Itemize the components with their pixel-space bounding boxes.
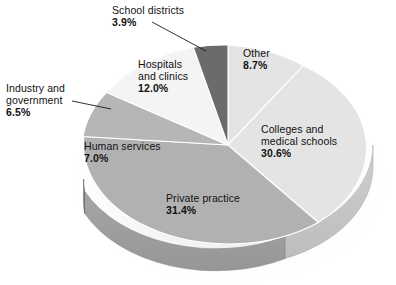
slice-label-private-practice: Private practice 31.4% (166, 192, 240, 216)
slice-label-industry-government-name-line1: Industry and (6, 82, 65, 94)
slice-label-hospitals-clinics-name-line1: Hospitals (138, 58, 188, 70)
slice-label-human-services-name: Human services (84, 140, 161, 152)
slice-label-hospitals-clinics-percent: 12.0% (138, 82, 188, 94)
slice-label-other-percent: 8.7% (243, 59, 270, 71)
slice-label-other: Other 8.7% (243, 47, 270, 71)
slice-label-industry-government: Industry and government 6.5% (6, 82, 65, 119)
pie-chart-figure: School districts 3.9% Other 8.7% College… (0, 0, 396, 285)
slice-label-private-practice-name: Private practice (166, 192, 240, 204)
slice-label-school-districts: School districts 3.9% (112, 4, 184, 28)
slice-label-industry-government-percent: 6.5% (6, 106, 65, 118)
slice-label-colleges-percent: 30.6% (261, 147, 337, 159)
slice-label-school-districts-percent: 3.9% (112, 16, 184, 28)
slice-label-hospitals-clinics-name-line2: and clinics (138, 70, 188, 82)
slice-label-industry-government-name-line2: government (6, 94, 65, 106)
slice-label-colleges: Colleges and medical schools 30.6% (261, 123, 337, 160)
slice-label-hospitals-clinics: Hospitals and clinics 12.0% (138, 58, 188, 95)
slice-label-private-practice-percent: 31.4% (166, 204, 240, 216)
slice-label-human-services-percent: 7.0% (84, 152, 161, 164)
slice-label-human-services: Human services 7.0% (84, 140, 161, 164)
slice-label-other-name: Other (243, 47, 270, 59)
slice-label-colleges-name-line2: medical schools (261, 135, 337, 147)
slice-label-colleges-name-line1: Colleges and (261, 123, 337, 135)
slice-label-school-districts-name: School districts (112, 4, 184, 16)
